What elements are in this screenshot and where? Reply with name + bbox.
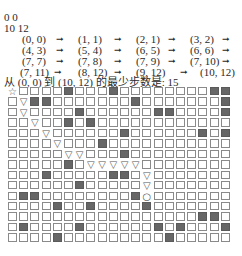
arrow-right-icon: ➞ — [56, 56, 63, 67]
arrow-right-icon: ➞ — [56, 45, 63, 56]
empty-cell — [210, 160, 219, 168]
empty-cell — [131, 223, 140, 231]
empty-cell — [176, 150, 185, 158]
empty-cell — [98, 233, 107, 241]
empty-cell — [221, 171, 230, 179]
empty-cell — [176, 118, 185, 126]
empty-cell — [198, 108, 207, 116]
empty-cell — [53, 129, 62, 137]
wall-cell — [86, 118, 95, 126]
empty-cell — [198, 223, 207, 231]
empty-cell — [8, 233, 17, 241]
path-triangle-icon: ▽ — [109, 160, 118, 168]
empty-cell — [154, 212, 163, 220]
wall-cell — [42, 171, 51, 179]
empty-cell — [30, 171, 39, 179]
arrow-right-icon: ➞ — [114, 56, 121, 67]
empty-cell — [42, 223, 51, 231]
empty-cell — [187, 87, 196, 95]
wall-cell — [210, 87, 219, 95]
wall-cell — [165, 108, 174, 116]
empty-cell — [98, 150, 107, 158]
path-triangle-icon: ▽ — [98, 160, 107, 168]
empty-cell — [19, 139, 28, 147]
empty-cell — [165, 150, 174, 158]
empty-cell — [210, 150, 219, 158]
arrow-right-icon: ➞ — [168, 56, 175, 67]
empty-cell — [198, 181, 207, 189]
empty-cell — [109, 223, 118, 231]
empty-cell — [8, 97, 17, 105]
path-triangle-icon: ▽ — [64, 150, 73, 158]
empty-cell — [86, 129, 95, 137]
empty-cell — [98, 212, 107, 220]
empty-cell — [176, 171, 185, 179]
arrow-right-icon: ➞ — [168, 45, 175, 56]
empty-cell — [131, 233, 140, 241]
empty-cell — [30, 87, 39, 95]
empty-cell — [98, 192, 107, 200]
empty-cell — [98, 181, 107, 189]
empty-cell — [64, 233, 73, 241]
empty-cell — [42, 181, 51, 189]
empty-cell — [165, 171, 174, 179]
empty-cell — [42, 139, 51, 147]
empty-cell — [187, 171, 196, 179]
empty-cell — [142, 160, 151, 168]
empty-cell — [86, 87, 95, 95]
empty-cell — [165, 202, 174, 210]
empty-cell — [131, 181, 140, 189]
empty-cell — [109, 212, 118, 220]
empty-cell — [109, 129, 118, 137]
empty-cell — [187, 233, 196, 241]
empty-cell — [187, 160, 196, 168]
wall-cell — [64, 87, 73, 95]
empty-cell — [30, 108, 39, 116]
empty-cell — [53, 118, 62, 126]
empty-cell — [64, 202, 73, 210]
wall-cell — [131, 97, 140, 105]
empty-cell — [64, 192, 73, 200]
empty-cell — [53, 87, 62, 95]
empty-cell — [120, 192, 129, 200]
empty-cell — [19, 160, 28, 168]
empty-cell — [64, 223, 73, 231]
empty-cell — [210, 171, 219, 179]
empty-cell — [154, 171, 163, 179]
empty-cell — [120, 212, 129, 220]
arrow-right-icon: ➞ — [222, 34, 229, 45]
empty-cell — [98, 202, 107, 210]
empty-cell — [165, 223, 174, 231]
empty-cell — [98, 87, 107, 95]
start-star-icon: ☆ — [8, 87, 17, 95]
wall-cell — [75, 108, 84, 116]
empty-cell — [53, 171, 62, 179]
empty-cell — [210, 223, 219, 231]
empty-cell — [210, 192, 219, 200]
empty-cell — [86, 171, 95, 179]
empty-cell — [187, 192, 196, 200]
empty-cell — [75, 202, 84, 210]
empty-cell — [131, 87, 140, 95]
empty-cell — [210, 129, 219, 137]
wall-cell — [154, 108, 163, 116]
empty-cell — [19, 150, 28, 158]
empty-cell — [53, 212, 62, 220]
empty-cell — [198, 97, 207, 105]
empty-cell — [221, 192, 230, 200]
empty-cell — [142, 139, 151, 147]
empty-cell — [8, 139, 17, 147]
empty-cell — [98, 97, 107, 105]
empty-cell — [19, 181, 28, 189]
empty-cell — [142, 129, 151, 137]
empty-cell — [176, 87, 185, 95]
empty-cell — [221, 181, 230, 189]
empty-cell — [210, 108, 219, 116]
empty-cell — [86, 139, 95, 147]
wall-cell — [120, 171, 129, 179]
empty-cell — [221, 212, 230, 220]
empty-cell — [187, 108, 196, 116]
empty-cell — [187, 139, 196, 147]
empty-cell — [42, 118, 51, 126]
empty-cell — [8, 181, 17, 189]
